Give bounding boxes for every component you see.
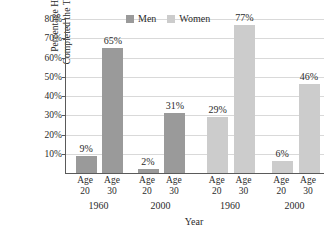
y-axis-tick-label: 10%	[28, 149, 62, 159]
bar	[272, 161, 293, 173]
bar-value-label: 77%	[225, 12, 265, 23]
bar-value-label: 9%	[66, 143, 106, 154]
bar	[299, 84, 320, 173]
legend-label-women: Women	[179, 13, 210, 24]
bar-value-label: 31%	[155, 100, 195, 111]
y-axis-tick-label: 60%	[28, 53, 62, 63]
legend-swatch-men-icon	[126, 15, 134, 23]
x-axis-title: Year	[65, 216, 323, 227]
bar-value-label: 6%	[262, 148, 302, 159]
y-axis-tick-label: 70%	[28, 33, 62, 43]
bar-value-label: 46%	[289, 71, 325, 82]
bar	[207, 117, 228, 173]
category-label-line-1: Age	[92, 175, 132, 186]
x-axis-category-label: Age30	[154, 175, 194, 196]
bar	[138, 169, 159, 173]
category-label-line-2: 30	[92, 186, 132, 197]
bar-value-label: 29%	[198, 104, 238, 115]
legend: Men Women	[126, 13, 210, 24]
x-axis-category-label: Age30	[224, 175, 264, 196]
y-axis-tick-labels: 80%70%60%50%40%30%20%10%	[28, 0, 62, 236]
bar	[234, 25, 255, 173]
category-label-line-2: 30	[288, 186, 325, 197]
x-axis-category-labels: Age20Age30Age20Age30Age20Age30Age20Age30…	[65, 175, 323, 215]
y-axis-tick-label: 50%	[28, 72, 62, 82]
x-axis-category-label: Age30	[92, 175, 132, 196]
category-label-line-2: 30	[224, 186, 264, 197]
y-axis-tick-label: 80%	[28, 14, 62, 24]
bar	[164, 113, 185, 173]
category-label-line-1: Age	[288, 175, 325, 186]
y-axis-tick-label: 40%	[28, 91, 62, 101]
category-label-line-1: Age	[224, 175, 264, 186]
x-axis-category-label: Age30	[288, 175, 325, 196]
bar	[102, 48, 123, 173]
bar-value-label: 65%	[93, 35, 133, 46]
plot-area: 9%65%2%31%29%77%6%46%	[65, 19, 324, 174]
x-axis-group-label: 1960	[205, 200, 255, 211]
x-axis-group-label: 1960	[74, 200, 124, 211]
y-axis-tick-label: 20%	[28, 130, 62, 140]
legend-swatch-women-icon	[167, 15, 175, 23]
category-label-line-1: Age	[154, 175, 194, 186]
bar-value-label: 2%	[128, 156, 168, 167]
bar-chart: Percentage Having Completed the Transiti…	[0, 0, 325, 236]
x-axis-group-label: 2000	[135, 200, 185, 211]
category-label-line-2: 30	[154, 186, 194, 197]
x-axis-group-label: 2000	[270, 200, 320, 211]
legend-label-men: Men	[138, 13, 156, 24]
legend-item-women: Women	[167, 13, 210, 24]
y-axis-tick-label: 30%	[28, 110, 62, 120]
legend-item-men: Men	[126, 13, 156, 24]
bar	[76, 156, 97, 173]
bars-layer: 9%65%2%31%29%77%6%46%	[66, 19, 324, 173]
